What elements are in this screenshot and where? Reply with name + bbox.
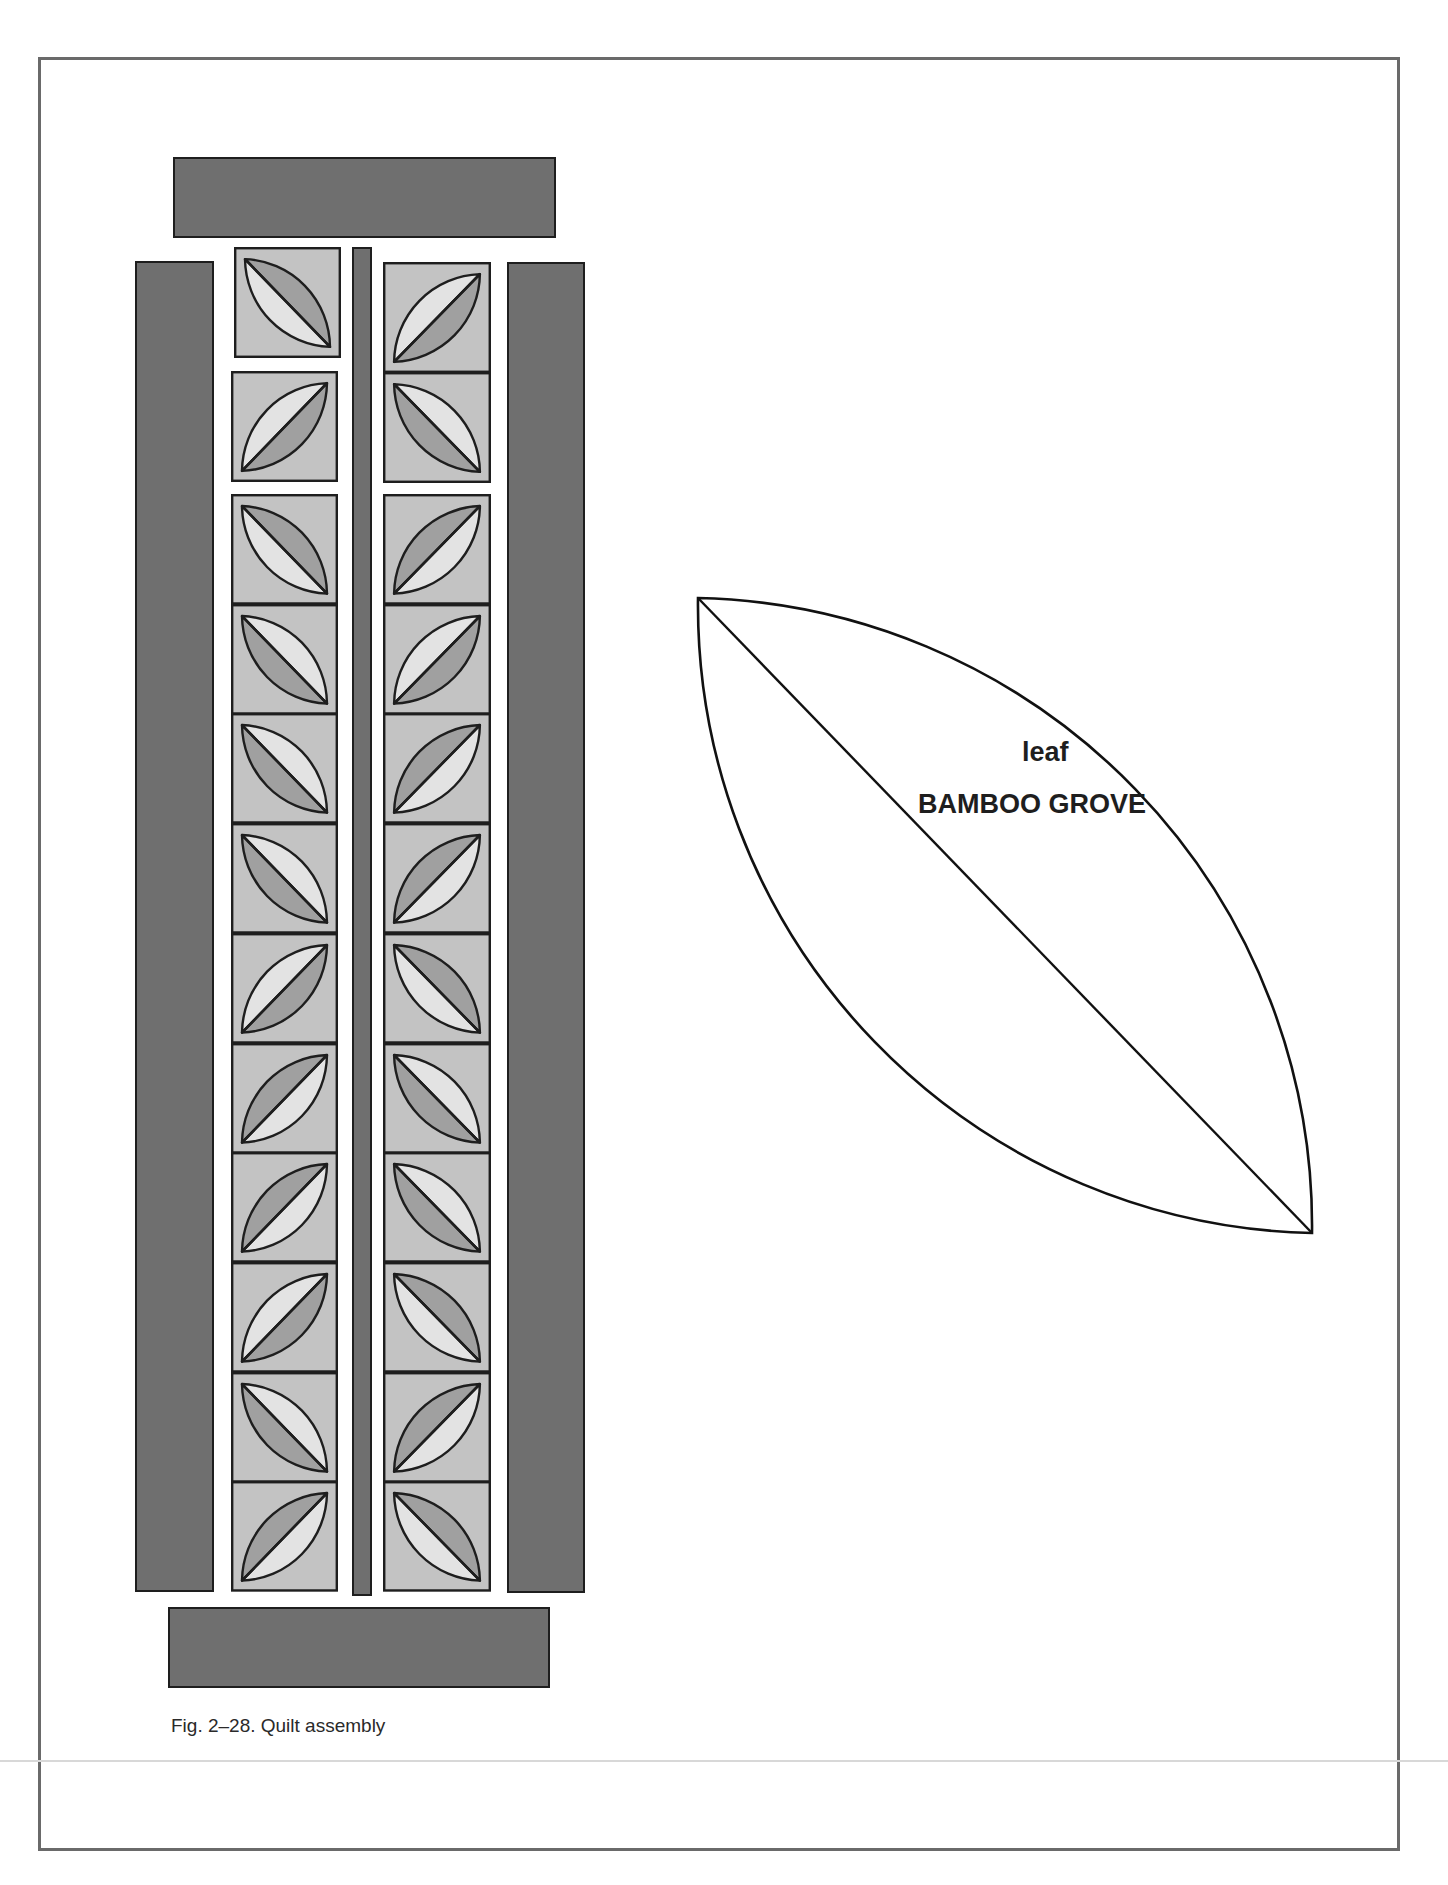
leaf-block xyxy=(231,1262,338,1373)
right-border-strip xyxy=(507,262,585,1593)
leaf-block xyxy=(383,1372,491,1483)
leaf-block xyxy=(383,823,491,934)
leaf-block xyxy=(231,1152,338,1263)
center-sashing-strip xyxy=(352,247,372,1596)
leaf-block xyxy=(231,713,338,824)
leaf-block xyxy=(383,1262,491,1373)
leaf-block xyxy=(383,1043,491,1154)
leaf-block xyxy=(383,713,491,824)
top-border-strip xyxy=(173,157,556,238)
leaf-block xyxy=(383,494,491,605)
leaf-block xyxy=(383,262,491,373)
leaf-block xyxy=(383,1481,491,1592)
leaf-block xyxy=(383,604,491,715)
leaf-block xyxy=(231,1043,338,1154)
leaf-block xyxy=(231,371,338,482)
figure-caption: Fig. 2–28. Quilt assembly xyxy=(171,1715,385,1737)
leaf-block xyxy=(383,1152,491,1263)
leaf-block xyxy=(231,1372,338,1483)
pattern-piece-name: leaf xyxy=(1022,737,1069,768)
leaf-block xyxy=(383,372,491,483)
leaf-block xyxy=(231,823,338,934)
leaf-block xyxy=(231,604,338,715)
leaf-block xyxy=(231,1481,338,1592)
bottom-border-strip xyxy=(168,1607,550,1688)
left-border-strip xyxy=(135,261,214,1592)
leaf-block xyxy=(234,247,341,358)
leaf-block xyxy=(231,494,338,605)
leaf-block xyxy=(231,933,338,1044)
pattern-name: BAMBOO GROVE xyxy=(918,789,1146,820)
page-rule xyxy=(0,1760,1448,1762)
leaf-block xyxy=(383,933,491,1044)
